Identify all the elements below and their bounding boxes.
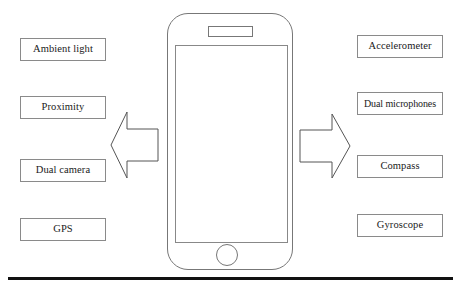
sensor-box-ambient-light[interactable]: Ambient light	[20, 38, 106, 61]
sensors-diagram: Ambient light Proximity Dual camera GPS …	[0, 0, 461, 296]
sensor-label: Dual camera	[36, 165, 90, 176]
sensor-box-accelerometer[interactable]: Accelerometer	[357, 35, 443, 58]
sensor-box-proximity[interactable]: Proximity	[20, 96, 106, 119]
arrow-right-icon	[299, 113, 351, 179]
sensor-box-compass[interactable]: Compass	[357, 155, 443, 178]
sensor-box-gyroscope[interactable]: Gyroscope	[357, 214, 443, 237]
sensor-box-gps[interactable]: GPS	[20, 218, 106, 241]
arrow-left-icon	[111, 110, 159, 180]
sensor-label: Ambient light	[33, 44, 93, 55]
sensor-label: Accelerometer	[368, 41, 431, 52]
earpiece-speaker-slot	[208, 26, 253, 37]
sensor-box-dual-microphones[interactable]: Dual microphones	[357, 92, 443, 115]
home-button[interactable]	[216, 244, 238, 266]
phone-screen	[175, 45, 288, 243]
sensor-label: Dual microphones	[364, 99, 436, 109]
sensor-label: Compass	[380, 161, 419, 172]
sensor-label: Proximity	[42, 102, 85, 113]
bottom-divider	[8, 277, 453, 280]
sensor-label: Gyroscope	[377, 220, 423, 231]
sensor-label: GPS	[53, 224, 73, 235]
sensor-box-dual-camera[interactable]: Dual camera	[20, 159, 106, 182]
